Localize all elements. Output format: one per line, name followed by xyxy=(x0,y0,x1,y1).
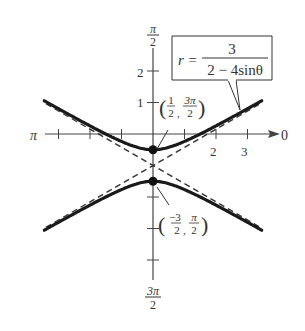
vertex-point-0 xyxy=(149,145,158,154)
svg-text:2: 2 xyxy=(150,35,156,49)
y-tick-label-1: 1 xyxy=(137,95,144,110)
axes xyxy=(45,48,280,280)
svg-text:−3: −3 xyxy=(169,211,181,223)
point-label-upper: ( 1 2 , 3π 2 ) xyxy=(157,94,205,149)
svg-text:3π: 3π xyxy=(146,284,160,298)
polar-axis-label: 0 xyxy=(281,128,288,143)
point-label-lower: ( −3 2 , π 2 ) xyxy=(157,187,208,237)
polar-plot: 0 π π 2 3π 2 2 1 2 3 r = 3 2 − 4sinθ ( 1… xyxy=(0,0,305,331)
svg-text:2: 2 xyxy=(150,298,156,312)
x-tick-label-2: 2 xyxy=(210,144,217,159)
svg-text:2: 2 xyxy=(187,107,193,119)
svg-text:(: ( xyxy=(159,95,166,120)
svg-text:2: 2 xyxy=(174,224,180,236)
vertex-point-1 xyxy=(149,177,158,186)
equation-denominator: 2 − 4sinθ xyxy=(207,62,263,78)
svg-text:π: π xyxy=(191,211,197,223)
svg-text:1: 1 xyxy=(168,94,174,106)
svg-text:): ) xyxy=(198,95,205,120)
x-tick-label-3: 3 xyxy=(241,144,248,159)
svg-text:2: 2 xyxy=(168,107,174,119)
svg-text:,: , xyxy=(177,107,180,119)
bottom-label-3pi-over-2: 3π 2 xyxy=(145,284,161,312)
equation-lhs: r = xyxy=(178,52,198,68)
equation-numerator: 3 xyxy=(228,41,236,57)
svg-text:,: , xyxy=(183,224,186,236)
svg-text:π: π xyxy=(150,22,157,36)
pi-label: π xyxy=(30,128,38,143)
top-label-pi-over-2: π 2 xyxy=(147,22,159,49)
svg-text:(: ( xyxy=(158,212,165,237)
svg-text:3π: 3π xyxy=(183,94,196,106)
svg-text:2: 2 xyxy=(191,224,197,236)
svg-text:): ) xyxy=(201,212,208,237)
y-tick-label-2: 2 xyxy=(137,65,144,80)
